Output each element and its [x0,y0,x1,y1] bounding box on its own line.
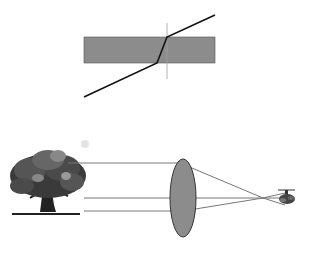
faint-spot [81,140,89,148]
refraction-figure [84,15,215,97]
inverted-tree-image-icon [278,190,295,204]
glass-slab [84,37,215,63]
tree-icon [10,150,86,214]
lens-figure [10,140,295,237]
convex-lens [170,159,196,237]
optics-diagram [0,0,309,254]
